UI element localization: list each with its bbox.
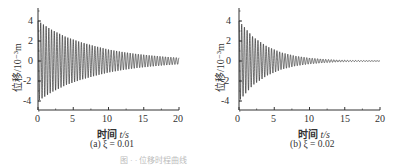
ytick-4: 4 <box>226 16 231 26</box>
displacement-line <box>239 21 380 99</box>
ytick-4: 4 <box>28 16 33 26</box>
xtick-20: 20 <box>375 114 385 124</box>
ytick-neg4: -4 <box>23 96 31 106</box>
displacement-line <box>38 21 179 100</box>
xtick-5: 5 <box>271 114 276 124</box>
xtick-15: 15 <box>340 114 350 124</box>
panel-caption-b: (b) ξ = 0.02 <box>290 139 334 149</box>
panel-caption-a: (a) ξ = 0.01 <box>90 139 134 149</box>
xtick-0: 0 <box>235 114 240 124</box>
xtick-15: 15 <box>138 114 148 124</box>
ytick-0: 0 <box>28 56 33 66</box>
xtick-10: 10 <box>102 114 112 124</box>
chart-panel-a: 4 2 0 -2 -4 0 5 10 15 20 位移/10⁻³m 时间 t/s… <box>0 0 198 150</box>
xtick-20: 20 <box>173 114 183 124</box>
xtick-10: 10 <box>304 114 314 124</box>
y-axis-label: 位移/10⁻³m <box>9 43 24 92</box>
xtick-5: 5 <box>70 114 75 124</box>
ytick-neg2: -2 <box>23 76 31 86</box>
y-axis-label: 位移/10⁻³m <box>212 43 227 92</box>
ytick-2: 2 <box>28 36 33 46</box>
figure-caption: 图 · · 位移时程曲线 <box>120 154 187 165</box>
xtick-0: 0 <box>35 114 40 124</box>
ytick-neg4: -4 <box>221 96 229 106</box>
chart-panel-b: 4 2 0 -2 -4 0 5 10 15 20 位移/10⁻³m 时间 t/s… <box>198 0 396 150</box>
